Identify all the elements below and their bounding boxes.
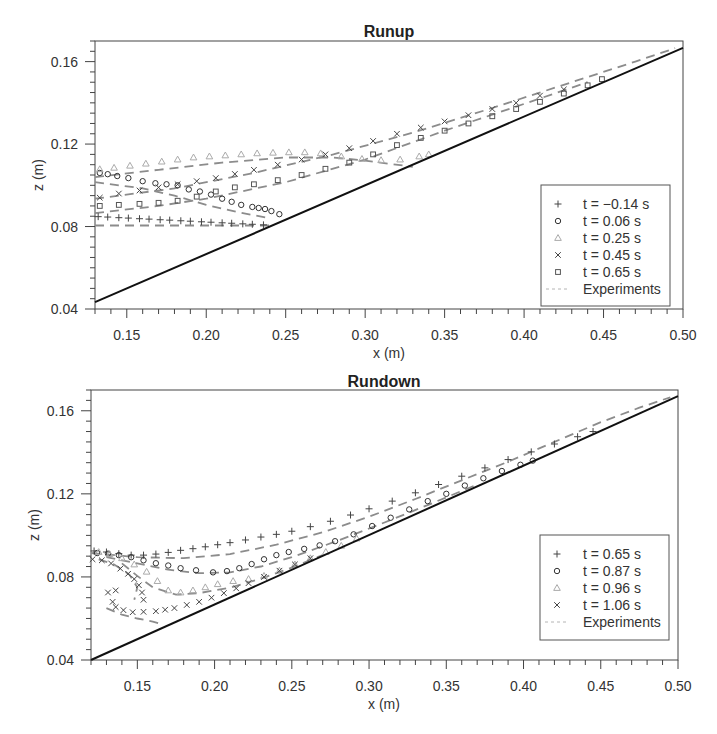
legend-label: t = 1.06 s [583,597,641,613]
legend-label: Experiments [583,281,661,297]
x-tick-label: 0.40 [510,327,537,343]
y-axis-label: z (m) [26,509,42,541]
y-tick-label: 0.08 [47,569,74,585]
x-tick-label: 0.35 [433,678,460,694]
y-axis-label: z (m) [30,159,46,191]
legend-label: t = 0.65 s [583,546,641,562]
legend: t = 0.65 s t = 0.87 s t = 0.96 s t = 1.0… [540,535,669,640]
legend-label: t = 0.45 s [583,247,641,263]
legend-label: t = −0.14 s [583,196,649,212]
legend-label: t = 0.25 s [583,230,641,246]
legend-label: t = 0.87 s [583,563,641,579]
legend-label: Experiments [583,614,661,630]
y-tick-label: 0.16 [51,54,78,70]
x-tick-label: 0.35 [431,327,458,343]
y-tick-label: 0.12 [47,486,74,502]
x-tick-label: 0.45 [590,327,617,343]
figure: t = −0.14 s t = 0.06 s t = 0.25 s t = 0.… [0,0,717,734]
x-tick-label: 0.15 [113,327,140,343]
chart-title: Runup [364,23,415,40]
x-tick-label: 0.25 [278,678,305,694]
x-tick-label: 0.30 [355,678,382,694]
y-tick-label: 0.04 [51,301,78,317]
legend-label: t = 0.65 s [583,264,641,280]
x-tick-label: 0.30 [352,327,379,343]
x-tick-label: 0.50 [664,678,691,694]
legend-label: t = 0.96 s [583,580,641,596]
y-tick-label: 0.08 [51,219,78,235]
legend-label: t = 0.06 s [583,213,641,229]
y-tick-label: 0.12 [51,136,78,152]
x-tick-label: 0.25 [272,327,299,343]
x-tick-label: 0.50 [669,327,696,343]
x-axis-label: x (m) [373,345,405,361]
y-tick-label: 0.04 [47,652,74,668]
x-tick-label: 0.15 [124,678,151,694]
chart-title: Rundown [348,373,421,390]
legend: t = −0.14 s t = 0.06 s t = 0.25 s t = 0.… [541,185,670,306]
y-tick-label: 0.16 [47,403,74,419]
x-tick-label: 0.20 [201,678,228,694]
x-tick-label: 0.45 [587,678,614,694]
x-tick-label: 0.40 [510,678,537,694]
x-tick-label: 0.20 [193,327,220,343]
x-axis-label: x (m) [368,696,400,712]
